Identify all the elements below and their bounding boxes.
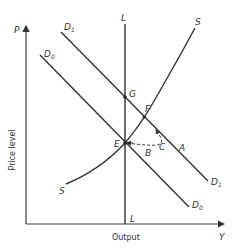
p-axis-label: P [14, 25, 20, 35]
point-g [123, 95, 127, 99]
svg-text:D0: D0 [44, 49, 55, 60]
point-e [123, 141, 127, 145]
g-label: G [129, 89, 136, 99]
d0-label-top: D0 [44, 49, 55, 60]
x-axis-title: Output [112, 233, 140, 242]
d1-label-top: D1 [64, 22, 75, 33]
l-label-bottom: L [130, 214, 135, 224]
l-label-top: L [121, 13, 126, 23]
e-label: E [114, 139, 120, 149]
a-label: A [178, 143, 185, 153]
d1-label-bottom: D1 [211, 177, 222, 188]
point-f [143, 116, 146, 119]
b-label: B [145, 148, 151, 158]
s-curve [66, 28, 195, 184]
y-axis-label: Y [219, 232, 226, 242]
d0-label-bottom: D0 [192, 200, 203, 211]
s-label-top: S [195, 17, 201, 27]
y-axis-title: Price level [8, 129, 17, 170]
svg-text:D1: D1 [64, 22, 75, 33]
s-label-bottom: S [59, 186, 65, 196]
svg-text:D0: D0 [192, 200, 203, 211]
f-label: F [145, 104, 151, 114]
d1-curve [61, 32, 208, 181]
ad-as-diagram: P Y Output Price level L L S S D1 D1 D0 … [0, 0, 236, 249]
svg-text:D1: D1 [211, 177, 222, 188]
c-label: C [159, 142, 166, 152]
